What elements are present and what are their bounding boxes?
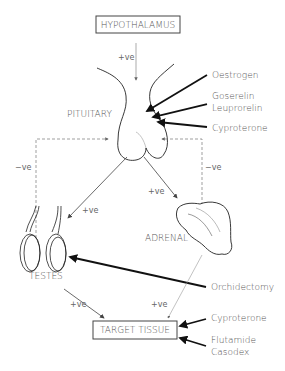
svg-text:TARGET TISSUE: TARGET TISSUE (100, 325, 170, 335)
orchidectomy-arrow (70, 257, 206, 287)
adrenal-label: ADRENAL (145, 233, 188, 243)
testes-icon (20, 206, 66, 272)
edge-label: +ve (148, 187, 164, 196)
edge-label: −ve (15, 163, 31, 172)
edge-label: +ve (70, 300, 86, 309)
flutamide-label: Flutamide (211, 335, 256, 345)
edge-label: +ve (118, 53, 134, 62)
goserelin-label: Goserelin (212, 91, 254, 101)
cyproterone-target-arrow (180, 319, 206, 326)
edge-label: −ve (205, 163, 221, 172)
cyproterone-pituitary-label: Cyproterone (212, 123, 268, 133)
oestrogen-label: Oestrogen (212, 70, 259, 80)
flutamide-arrow (180, 338, 206, 346)
edge-label: +ve (82, 206, 98, 215)
hypothalamus-node: HYPOTHALAMUS (96, 16, 180, 33)
testes-negative-feedback (36, 139, 108, 238)
casodex-label: Casodex (211, 347, 249, 357)
cyproterone-target-label: Cyproterone (211, 313, 267, 323)
edge-label: +ve (151, 300, 167, 309)
goserelin-arrow (153, 104, 207, 117)
adrenal-to-target-arrow (168, 255, 202, 318)
cyproterone-pituitary-arrow (158, 122, 207, 127)
leuprorelin-label: Leuprorelin (212, 103, 263, 113)
adrenal-gland-icon (176, 202, 231, 254)
target-tissue-node: TARGET TISSUE (93, 321, 177, 339)
pituitary-label: PITUITARY (67, 109, 112, 119)
hormone-pathway-diagram: HYPOTHALAMUS +ve PITUITARY Oestrogen Gos… (0, 0, 285, 371)
orchidectomy-label: Orchidectomy (211, 282, 274, 292)
svg-text:HYPOTHALAMUS: HYPOTHALAMUS (101, 20, 176, 30)
testes-label: TESTES (29, 271, 63, 281)
